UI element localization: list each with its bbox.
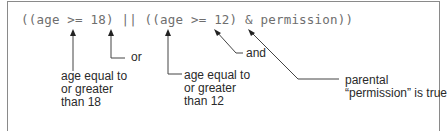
arrow-age-12 <box>165 29 182 74</box>
arrow-age-18 <box>70 29 76 71</box>
label-age-18: age equal to or greater than 18 <box>61 70 127 109</box>
arrow-or <box>108 29 125 58</box>
label-and: and <box>246 47 266 60</box>
label-permission: parental “permission” is true <box>345 74 447 100</box>
label-or: or <box>131 51 142 64</box>
arrow-and <box>214 29 243 53</box>
label-age-12: age equal to or greater than 12 <box>184 69 250 108</box>
